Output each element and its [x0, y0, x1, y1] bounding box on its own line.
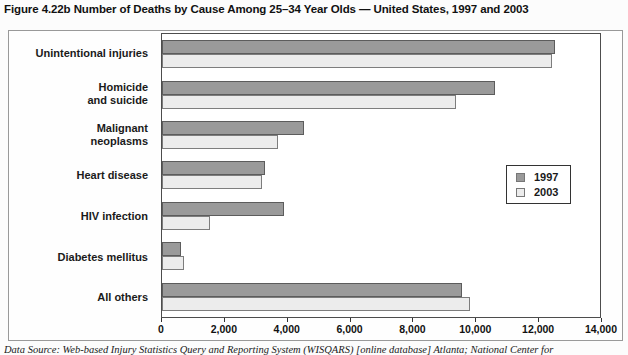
- bar-2003: [162, 175, 262, 189]
- data-source-caption: Data Source: Web-based Injury Statistics…: [4, 344, 628, 355]
- tick-mark: [475, 318, 476, 322]
- bar-1997: [162, 81, 495, 95]
- legend-swatch-2003-icon: [516, 188, 525, 197]
- legend-label-2003: 2003: [534, 186, 558, 198]
- category-label: Unintentional injuries: [11, 33, 155, 74]
- bar-group: [162, 277, 600, 317]
- x-axis: 02,0004,0006,0008,00010,00012,00014,000: [161, 318, 601, 338]
- tick-label: 14,000: [585, 323, 617, 335]
- legend-label-1997: 1997: [534, 171, 558, 183]
- bar-2003: [162, 95, 456, 109]
- bar-2003: [162, 216, 210, 230]
- bar-group: [162, 74, 600, 114]
- tick-mark: [601, 318, 602, 322]
- figure: Figure 4.22b Number of Deaths by Cause A…: [0, 0, 628, 355]
- bar-1997: [162, 242, 181, 256]
- tick-mark: [538, 318, 539, 322]
- tick-mark: [287, 318, 288, 322]
- tick-label: 4,000: [274, 323, 300, 335]
- tick-label: 2,000: [211, 323, 237, 335]
- category-labels: Unintentional injuriesHomicide and suici…: [11, 33, 155, 318]
- category-label: Heart disease: [11, 155, 155, 196]
- legend-entry-1997: 1997: [516, 171, 558, 183]
- figure-title: Figure 4.22b Number of Deaths by Cause A…: [4, 3, 626, 15]
- bar-group: [162, 236, 600, 276]
- legend-entry-2003: 2003: [516, 186, 558, 198]
- figure-box: Unintentional injuriesHomicide and suici…: [8, 30, 623, 341]
- bar-2003: [162, 297, 470, 311]
- tick-mark: [224, 318, 225, 322]
- bar-group: [162, 115, 600, 155]
- bar-1997: [162, 40, 555, 54]
- legend-swatch-1997-icon: [516, 173, 525, 182]
- tick-mark: [350, 318, 351, 322]
- bar-1997: [162, 161, 265, 175]
- bar-2003: [162, 135, 278, 149]
- tick-label: 10,000: [459, 323, 491, 335]
- category-label: HIV infection: [11, 196, 155, 237]
- bar-2003: [162, 256, 184, 270]
- tick-label: 12,000: [522, 323, 554, 335]
- bar-1997: [162, 121, 304, 135]
- legend: 1997 2003: [506, 165, 571, 204]
- bar-2003: [162, 54, 552, 68]
- tick-label: 8,000: [399, 323, 425, 335]
- category-label: Diabetes mellitus: [11, 237, 155, 278]
- category-label: Homicide and suicide: [11, 74, 155, 115]
- category-label: Malignant neoplasms: [11, 114, 155, 155]
- bar-group: [162, 34, 600, 74]
- plot-area: 1997 2003: [161, 33, 601, 318]
- tick-mark: [161, 318, 162, 322]
- bar-1997: [162, 202, 284, 216]
- tick-label: 0: [158, 323, 164, 335]
- tick-label: 6,000: [336, 323, 362, 335]
- tick-mark: [412, 318, 413, 322]
- bar-1997: [162, 283, 462, 297]
- category-label: All others: [11, 277, 155, 318]
